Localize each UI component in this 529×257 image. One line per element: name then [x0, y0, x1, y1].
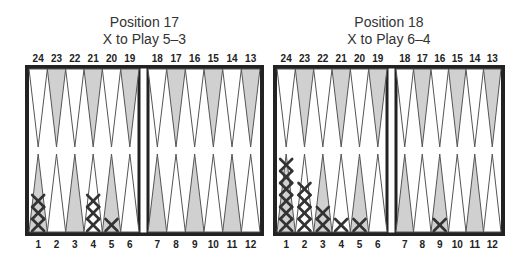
point-label-18: 18: [399, 53, 411, 64]
point-label-17: 17: [417, 53, 429, 64]
point-label-15: 15: [452, 53, 464, 64]
point-label-8: 8: [419, 239, 425, 250]
point-label-1: 1: [35, 239, 41, 250]
point-label-9: 9: [192, 239, 198, 250]
board-bar: [139, 67, 148, 234]
point-label-12: 12: [245, 239, 257, 250]
point-label-20: 20: [106, 53, 118, 64]
point-label-7: 7: [155, 239, 161, 250]
point-label-23: 23: [299, 53, 311, 64]
point-label-4: 4: [338, 239, 344, 250]
point-label-13: 13: [245, 53, 257, 64]
point-label-5: 5: [357, 239, 363, 250]
point-label-4: 4: [90, 239, 96, 250]
point-label-21: 21: [88, 53, 100, 64]
point-label-3: 3: [320, 239, 326, 250]
point-label-19: 19: [124, 53, 136, 64]
backgammon-diagrams: 2412322232142051961871781691510141113122…: [0, 0, 529, 257]
point-label-18: 18: [152, 53, 164, 64]
point-label-21: 21: [336, 53, 348, 64]
point-label-11: 11: [227, 239, 238, 250]
point-label-22: 22: [69, 53, 81, 64]
point-label-17: 17: [170, 53, 182, 64]
board-bar: [387, 67, 396, 234]
point-label-7: 7: [402, 239, 408, 250]
point-label-12: 12: [487, 239, 499, 250]
point-label-16: 16: [189, 53, 201, 64]
point-label-5: 5: [109, 239, 115, 250]
point-label-14: 14: [226, 53, 238, 64]
point-label-19: 19: [372, 53, 384, 64]
point-label-20: 20: [354, 53, 366, 64]
point-label-22: 22: [317, 53, 329, 64]
position-18-board: 241232223214205196187178169151014111312: [275, 53, 503, 250]
point-label-24: 24: [281, 53, 293, 64]
point-label-16: 16: [434, 53, 446, 64]
point-label-6: 6: [127, 239, 133, 250]
position-17-board: 241232223214205196187178169151014111312: [27, 53, 262, 250]
point-label-10: 10: [208, 239, 220, 250]
point-label-14: 14: [469, 53, 481, 64]
point-label-23: 23: [51, 53, 63, 64]
point-label-11: 11: [469, 239, 480, 250]
point-label-1: 1: [283, 239, 289, 250]
point-label-10: 10: [452, 239, 464, 250]
point-label-15: 15: [208, 53, 220, 64]
point-label-9: 9: [437, 239, 443, 250]
point-label-6: 6: [375, 239, 381, 250]
point-label-13: 13: [487, 53, 499, 64]
point-label-3: 3: [72, 239, 78, 250]
point-label-2: 2: [302, 239, 308, 250]
point-label-24: 24: [33, 53, 45, 64]
point-label-8: 8: [173, 239, 179, 250]
point-label-2: 2: [54, 239, 60, 250]
